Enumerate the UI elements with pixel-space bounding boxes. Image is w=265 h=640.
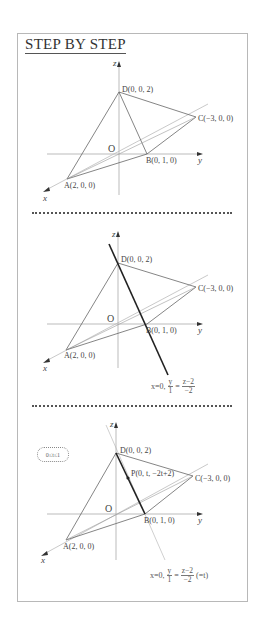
segment-db	[116, 453, 145, 514]
fraction-z: z−2−2	[181, 567, 194, 584]
point-b-label: B(0, 1, 0)	[144, 516, 175, 525]
x-axis-label: x	[40, 555, 45, 565]
point-c-label: C(−3, 0, 0)	[195, 474, 231, 483]
formula-prefix: x=0,	[150, 571, 165, 580]
fraction-y: y1	[167, 567, 173, 584]
z-axis-label: z	[109, 419, 114, 429]
origin-label: O	[105, 503, 112, 514]
equals-sign: =	[174, 571, 179, 580]
parameter-suffix: (=t)	[196, 571, 208, 580]
parameter-range-note: 0≤t≤1	[37, 447, 69, 462]
point-a-label: A(2, 0, 0)	[63, 542, 94, 551]
point-p-label: P(0, t, −2t+2)	[131, 469, 175, 478]
point-p	[126, 476, 129, 479]
segment-equation: x=0, y1 = z−2−2 (=t)	[150, 567, 208, 584]
panel-step-3: z y x O D(0, 0, 2) P(0, t, −2t+2) C(−3, …	[0, 0, 265, 570]
point-d-label: D(0, 0, 2)	[120, 446, 151, 455]
y-axis-label: y	[197, 515, 202, 525]
